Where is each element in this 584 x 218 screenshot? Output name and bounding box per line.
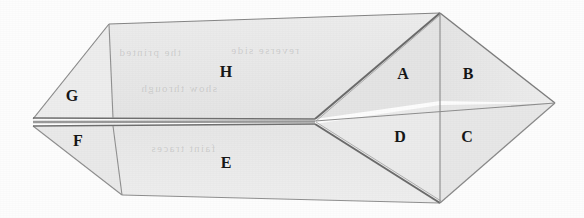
face-label-G: G (66, 87, 79, 104)
edge-central-seam-upper (33, 118, 315, 119)
face-label-A: A (397, 65, 409, 82)
face-label-H: H (220, 63, 233, 80)
face-label-B: B (463, 65, 474, 82)
solid-figure: A B C D E F G H (0, 0, 584, 218)
face-label-C: C (461, 128, 473, 145)
edge-central-seam-core (33, 122, 315, 123)
face-label-D: D (394, 128, 406, 145)
face-label-E: E (221, 154, 232, 171)
face-label-F: F (73, 132, 83, 149)
figure-page: A B C D E F G H the printed reverse side… (0, 0, 584, 218)
